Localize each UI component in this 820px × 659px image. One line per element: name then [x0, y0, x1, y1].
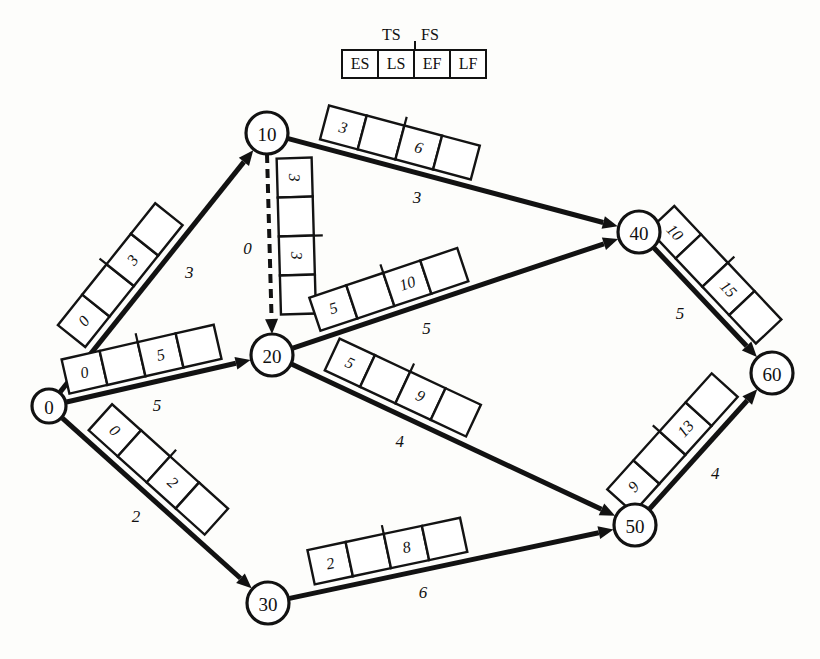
node-50[interactable]: 50 — [614, 504, 656, 546]
arrowhead-icon — [234, 357, 250, 370]
arrowhead-icon — [597, 526, 613, 539]
duration-label-10-20: 0 — [243, 239, 252, 258]
activity-box-50-60: 913 — [601, 367, 738, 512]
activity-box-20-50: 59 — [325, 330, 485, 436]
box-center-tick — [404, 117, 406, 126]
node-label-20: 20 — [263, 346, 282, 367]
node-40[interactable]: 40 — [618, 211, 660, 253]
arrowhead-icon — [602, 238, 618, 250]
arrowhead-icon — [265, 319, 278, 334]
arrowhead-icon — [602, 216, 618, 229]
box-center-tick — [100, 259, 107, 265]
node-label-40: 40 — [630, 223, 649, 244]
box-center-tick — [728, 257, 735, 263]
node-10[interactable]: 10 — [246, 112, 288, 154]
node-20[interactable]: 20 — [251, 334, 293, 376]
duration-label-20-40: 5 — [422, 319, 431, 338]
duration-label-0-30: 2 — [132, 507, 141, 526]
node-label-60: 60 — [763, 364, 782, 385]
box-center-tick — [380, 264, 383, 273]
duration-label-10-40: 3 — [412, 188, 422, 207]
activity-box-40-60: 1015 — [649, 200, 788, 344]
activity-line — [292, 364, 602, 509]
activity-cell-3 — [176, 325, 222, 368]
activity-cell-1 — [278, 197, 314, 237]
network-graph: 3520354654 030502333651059281015913 0102… — [0, 0, 820, 659]
activity-cell-value-2: 3 — [288, 250, 305, 259]
duration-label-30-50: 6 — [419, 583, 428, 602]
dummy-activity-line — [267, 154, 272, 319]
duration-label-0-10: 3 — [184, 263, 194, 282]
duration-label-50-60: 4 — [711, 464, 720, 483]
duration-label-0-20: 5 — [153, 396, 162, 415]
node-label-50: 50 — [626, 516, 645, 537]
activity-cell-3 — [422, 518, 467, 560]
activity-cell-3 — [433, 136, 480, 180]
network-diagram-canvas: TS FS ESLSEFLF 3520354654 03050233365105… — [0, 0, 820, 659]
activity-cell-3 — [280, 275, 316, 315]
node-label-0: 0 — [44, 397, 54, 418]
node-label-10: 10 — [258, 124, 277, 145]
node-30[interactable]: 30 — [247, 582, 289, 624]
box-center-tick — [653, 425, 660, 431]
box-center-tick — [136, 333, 138, 342]
node-label-30: 30 — [259, 594, 278, 615]
activity-box-10-20: 33 — [277, 157, 325, 314]
activity-box-30-50: 28 — [306, 509, 468, 584]
activity-cell-value-0: 3 — [286, 172, 303, 181]
activity-boxes-layer: 030502333651059281015913 — [51, 97, 788, 585]
activity-box-0-30: 02 — [89, 398, 234, 535]
duration-label-40-60: 5 — [676, 304, 685, 323]
duration-label-20-50: 4 — [396, 432, 405, 451]
box-center-tick — [170, 450, 176, 457]
node-60[interactable]: 60 — [751, 352, 793, 394]
box-center-tick — [382, 525, 384, 534]
edge-20-to-50 — [292, 364, 615, 515]
box-center-tick — [410, 364, 414, 372]
node-0[interactable]: 0 — [32, 389, 66, 423]
